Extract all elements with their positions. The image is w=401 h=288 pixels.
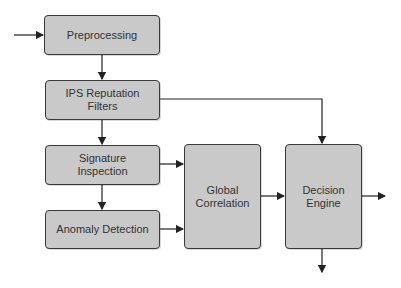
anomaly-detection-box: Anomaly Detection xyxy=(45,210,160,249)
global-correlation-box: Global Correlation xyxy=(184,144,261,249)
preprocessing-label: Preprocessing xyxy=(67,29,137,42)
ips-reputation-filters-label: IPS Reputation Filters xyxy=(66,87,140,113)
decision-engine-label: Decision Engine xyxy=(302,184,344,210)
ips-reputation-filters-box: IPS Reputation Filters xyxy=(45,80,160,120)
signature-inspection-box: Signature Inspection xyxy=(45,145,160,185)
anomaly-detection-label: Anomaly Detection xyxy=(56,223,148,236)
signature-inspection-label: Signature Inspection xyxy=(77,152,127,178)
global-correlation-label: Global Correlation xyxy=(196,184,250,210)
decision-engine-box: Decision Engine xyxy=(285,144,362,249)
arrow-ips-to-decision xyxy=(160,99,322,143)
preprocessing-box: Preprocessing xyxy=(44,15,160,55)
